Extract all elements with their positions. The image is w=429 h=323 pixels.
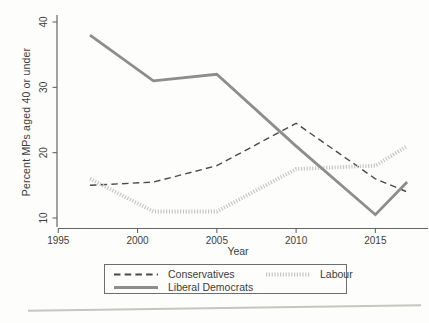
- series-line-liberal-democrats: [90, 35, 407, 215]
- svg-text:20: 20: [38, 147, 49, 159]
- hatched-line-sample-icon: [265, 270, 311, 279]
- svg-text:2005: 2005: [206, 235, 229, 246]
- legend: Conservatives Labour Liberal Democrats: [104, 264, 347, 294]
- x-axis: 19952000200520102015: [47, 229, 428, 246]
- svg-text:2010: 2010: [285, 235, 308, 246]
- legend-item-labour: Labour: [265, 268, 353, 280]
- legend-item-liberal-democrats: Liberal Democrats: [113, 281, 253, 293]
- svg-text:30: 30: [38, 81, 49, 93]
- svg-text:1995: 1995: [47, 235, 70, 246]
- solid-line-sample-icon: [113, 283, 159, 292]
- svg-text:10: 10: [38, 212, 49, 224]
- series-line-conservatives: [90, 123, 407, 192]
- legend-label-conservatives: Conservatives: [168, 268, 235, 280]
- y-axis: 10203040: [38, 15, 57, 227]
- legend-label-labour: Labour: [320, 268, 353, 280]
- dashed-line-sample-icon: [113, 270, 159, 279]
- svg-text:2015: 2015: [364, 235, 387, 246]
- x-axis-title: Year: [148, 245, 328, 257]
- svg-text:2000: 2000: [126, 235, 149, 246]
- legend-label-liberal-democrats: Liberal Democrats: [168, 281, 253, 293]
- chart-figure: 1020304019952000200520102015 Percent MPs…: [0, 0, 429, 323]
- svg-text:40: 40: [38, 16, 49, 28]
- legend-item-conservatives: Conservatives: [113, 268, 235, 280]
- y-axis-title: Percent MPs aged 40 or under: [20, 34, 32, 210]
